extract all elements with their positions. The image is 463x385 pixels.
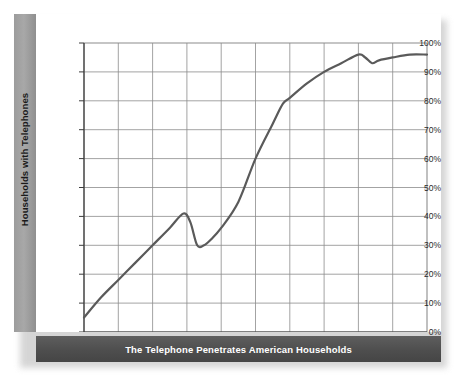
y-tick-label: 30% <box>401 240 441 250</box>
y-tick-label: 90% <box>401 67 441 77</box>
y-tick-label: 100% <box>401 38 441 48</box>
y-tick-label: 20% <box>401 269 441 279</box>
y-tick-label: 80% <box>401 96 441 106</box>
y-tick-label: 50% <box>401 183 441 193</box>
y-tick-label: 60% <box>401 154 441 164</box>
chart-svg <box>36 14 441 332</box>
y-tick-label: 70% <box>401 125 441 135</box>
plot-plate: 0%10%20%30%40%50%60%70%80%90%100%1900191… <box>36 14 441 332</box>
figure-caption: The Telephone Penetrates American Househ… <box>36 336 441 362</box>
y-tick-label: 40% <box>401 211 441 221</box>
telephone-penetration-figure: Households with Telephones 0%10%20%30%40… <box>14 14 441 362</box>
y-tick-label: 10% <box>401 298 441 308</box>
y-axis-title-band: Households with Telephones <box>14 14 36 332</box>
y-axis-title: Households with Telephones <box>19 10 30 310</box>
